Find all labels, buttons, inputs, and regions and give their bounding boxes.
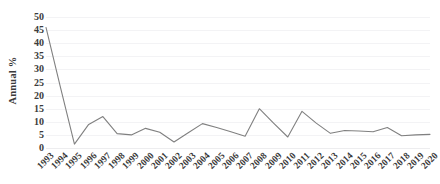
plot-area <box>46 17 430 148</box>
y-tick-label-35: 35 <box>22 51 44 61</box>
series-line-annual-percent <box>46 17 430 148</box>
y-tick-label-0: 0 <box>22 143 44 153</box>
y-tick-label-10: 10 <box>22 117 44 127</box>
y-tick-label-15: 15 <box>22 104 44 114</box>
y-axis-title-label: Annual % <box>7 56 18 104</box>
y-tick-label-25: 25 <box>22 78 44 88</box>
y-tick-label-45: 45 <box>22 25 44 35</box>
y-axis-tick-labels: 05101520253035404550 <box>22 0 44 160</box>
y-tick-label-50: 50 <box>22 12 44 22</box>
x-axis-tick-labels: 1993199419951996199719981999200020012002… <box>46 149 430 184</box>
series-polyline <box>46 27 430 144</box>
y-tick-label-20: 20 <box>22 91 44 101</box>
y-tick-label-5: 5 <box>22 130 44 140</box>
y-tick-label-30: 30 <box>22 64 44 74</box>
y-tick-label-40: 40 <box>22 38 44 48</box>
y-axis-title: Annual % <box>0 0 24 160</box>
